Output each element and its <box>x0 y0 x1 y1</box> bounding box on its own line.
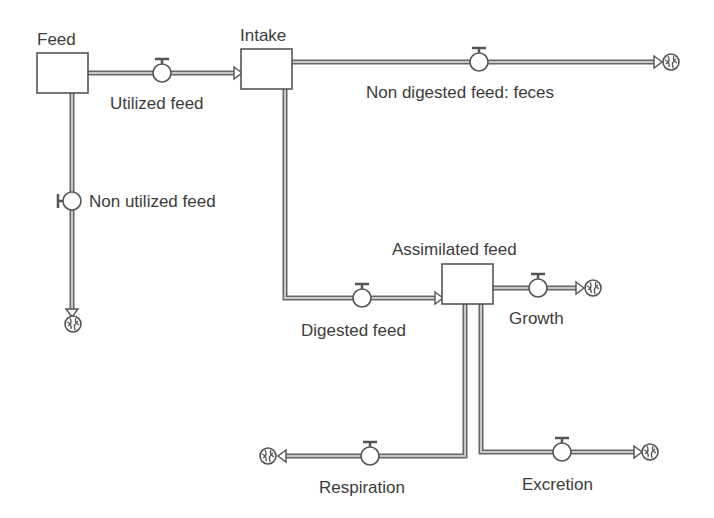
stock-feed-label: Feed <box>37 31 76 48</box>
stock-intake-box <box>241 49 292 89</box>
stock-intake-label: Intake <box>240 27 286 44</box>
flow-growth-label: Growth <box>509 310 564 327</box>
cloud-icons <box>65 54 679 464</box>
stock-feed-box <box>37 53 88 93</box>
stock-assimilated-label: Assimilated feed <box>392 241 517 258</box>
arrowheads <box>66 56 662 462</box>
flow-respiration-label: Respiration <box>319 479 405 496</box>
flow-digested-label: Digested feed <box>301 322 406 339</box>
pipes <box>72 62 656 456</box>
stock-assimilated-box <box>442 264 493 304</box>
flow-utilized-label: Utilized feed <box>110 95 204 112</box>
flow-non-utilized-label: Non utilized feed <box>89 193 216 210</box>
flow-excretion-label: Excretion <box>522 476 593 493</box>
stock-flow-diagram: Feed Intake Assimilated feed Utilized fe… <box>0 0 714 518</box>
flow-feces-label: Non digested feed: feces <box>366 84 554 101</box>
